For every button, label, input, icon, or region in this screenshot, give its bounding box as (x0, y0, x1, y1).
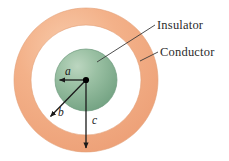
radius-label-b: b (58, 106, 64, 118)
label-insulator: Insulator (157, 18, 203, 33)
label-conductor: Conductor (160, 45, 215, 60)
physics-diagram: Insulator Conductor a b c (0, 0, 229, 161)
radius-label-c: c (92, 114, 97, 126)
radius-label-a: a (65, 65, 71, 77)
center-dot (83, 77, 89, 83)
